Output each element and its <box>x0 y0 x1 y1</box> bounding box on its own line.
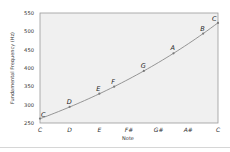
x-tick-label: F# <box>125 126 133 133</box>
x-tick-label: C <box>216 126 221 133</box>
y-tick-label: 450 <box>24 47 34 53</box>
x-tick-label: E <box>97 126 101 133</box>
data-point-marker <box>172 52 174 54</box>
y-tick-label: 300 <box>24 102 34 108</box>
data-point-label: C <box>41 111 46 119</box>
data-point-label: C <box>212 15 217 23</box>
x-axis-label: Note <box>122 135 134 141</box>
y-tick-label: 500 <box>24 28 34 34</box>
data-point-marker <box>217 22 219 24</box>
data-point-label: G <box>141 62 146 70</box>
y-tick-label: 250 <box>24 120 34 126</box>
data-point-marker <box>202 32 204 34</box>
x-tick-label: D <box>67 126 72 133</box>
plot-area <box>40 13 218 123</box>
bottom-separator <box>0 147 230 148</box>
data-point-label: F <box>111 78 115 86</box>
y-axis-label: Fundamental Frequency (Hz) <box>9 32 16 104</box>
data-point-label: A <box>170 44 175 52</box>
data-point-marker <box>98 93 100 95</box>
y-axis-ticks: 250300350400450500550 <box>24 10 34 126</box>
data-point-label: D <box>67 98 72 106</box>
y-tick-label: 400 <box>24 65 34 71</box>
x-tick-label: A# <box>183 126 193 133</box>
x-tick-label: G# <box>154 126 164 133</box>
y-tick-label: 550 <box>24 10 34 16</box>
data-point-marker <box>113 86 115 88</box>
data-point-label: B <box>200 25 205 33</box>
x-tick-label: C <box>38 126 43 133</box>
y-tick-label: 350 <box>24 83 34 89</box>
x-axis-ticks: CDEF#G#A#C <box>38 126 221 133</box>
frequency-chart: 250300350400450500550 CDEF#G#A#C CDEFGAB… <box>0 0 230 152</box>
data-point-marker <box>69 106 71 108</box>
data-point-marker <box>143 70 145 72</box>
